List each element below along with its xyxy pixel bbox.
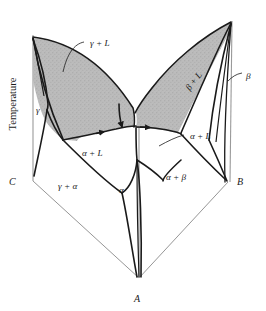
leader-beta <box>228 73 242 81</box>
alpha-field-right-edge <box>122 160 137 193</box>
y-axis-label: Temperature <box>7 77 18 130</box>
phase-label-alpha-plus-L-left: α + L <box>82 148 103 158</box>
gamma-field-lower-left <box>34 110 47 176</box>
gamma-plus-L-surface <box>33 38 133 141</box>
phase-label-beta: β <box>245 71 251 81</box>
alpha-solidus-dome <box>136 128 137 160</box>
beta-plus-L-surface <box>136 22 231 133</box>
ternary-phase-diagram-figure: Temperature C B A γ β α γ + L β + L α + … <box>0 0 266 311</box>
leader-alpha-plus-L-right <box>159 135 184 146</box>
axis-line-B <box>230 21 232 182</box>
phase-label-gamma: γ <box>36 105 40 115</box>
alpha-solvus-right <box>137 160 163 180</box>
corner-label-B: B <box>237 176 243 187</box>
phase-diagram-canvas: Temperature C B A γ β α γ + L β + L α + … <box>0 0 266 311</box>
prism-base-edges <box>33 181 228 278</box>
valley-arrow-right <box>140 127 150 128</box>
corner-label-C: C <box>9 176 16 187</box>
alpha-beta-boundary-lower <box>163 180 167 277</box>
phase-label-alpha: α <box>119 185 124 195</box>
phase-label-gamma-plus-alpha: γ + α <box>58 181 77 191</box>
phase-label-alpha-plus-L-right: α + L <box>190 131 211 141</box>
corner-label-A: A <box>133 293 141 304</box>
phase-label-alpha-plus-beta: α + β <box>166 172 187 182</box>
phase-label-gamma-plus-L: γ + L <box>90 38 110 48</box>
